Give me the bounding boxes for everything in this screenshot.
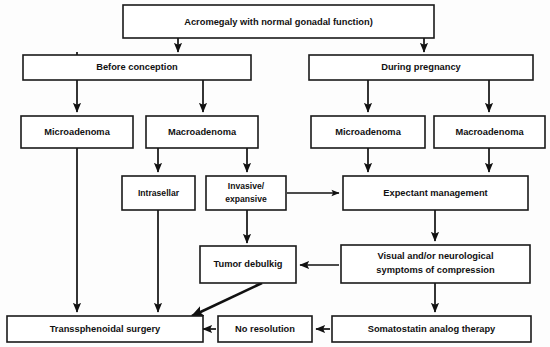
node-layer: Acromegaly with normal gonadal function)… [7, 5, 545, 342]
flowchart-canvas: Acromegaly with normal gonadal function)… [0, 0, 550, 347]
node-label-microadenoma-right: Microadenoma [335, 127, 401, 137]
node-microadenoma-right[interactable]: Microadenoma [311, 116, 425, 148]
node-expectant-management[interactable]: Expectant management [343, 176, 528, 210]
node-label-no-resolution: No resolution [235, 324, 295, 334]
node-tumor-debulking[interactable]: Tumor debulkig [200, 246, 296, 283]
node-label-macroadenoma-left: Macroadenoma [168, 127, 237, 137]
node-label-transsphenoidal-surgery: Transsphenoidal surgery [50, 324, 161, 334]
node-label-intrasellar: Intrasellar [138, 188, 180, 198]
node-label-during-pregnancy: During pregnancy [381, 62, 461, 72]
node-no-resolution[interactable]: No resolution [218, 316, 312, 342]
node-label-invasive-line2: expansive [225, 194, 267, 204]
node-microadenoma-left[interactable]: Microadenoma [21, 116, 133, 148]
node-invasive-expansive[interactable]: Invasive/ expansive [206, 176, 286, 210]
node-before-conception[interactable]: Before conception [23, 55, 251, 80]
node-label-invasive-line1: Invasive/ [228, 181, 265, 191]
node-label-microadenoma-left: Microadenoma [44, 127, 110, 137]
node-label-macroadenoma-right: Macroadenoma [455, 127, 524, 137]
node-label-symptoms-line2: symptoms of compression [376, 265, 495, 275]
node-label-before-conception: Before conception [96, 62, 178, 72]
node-acromegaly-root[interactable]: Acromegaly with normal gonadal function) [123, 5, 434, 38]
node-macroadenoma-right[interactable]: Macroadenoma [434, 116, 545, 148]
node-macroadenoma-left[interactable]: Macroadenoma [146, 116, 258, 148]
node-label-tumor-debulking: Tumor debulkig [213, 259, 282, 269]
edge-tumor-debulking-to-transsphenoidal [192, 283, 262, 316]
node-compression-symptoms[interactable]: Visual and/or neurological symptoms of c… [341, 245, 530, 283]
node-during-pregnancy[interactable]: During pregnancy [309, 55, 533, 80]
node-label-symptoms-line1: Visual and/or neurological [377, 251, 493, 261]
node-label-expectant-management: Expectant management [383, 188, 487, 198]
node-somatostatin-therapy[interactable]: Somatostatin analog therapy [332, 316, 531, 342]
flowchart-diagram: Acromegaly with normal gonadal function)… [0, 0, 550, 347]
node-label-somatostatin-therapy: Somatostatin analog therapy [368, 324, 496, 334]
node-transsphenoidal-surgery[interactable]: Transsphenoidal surgery [7, 316, 203, 342]
node-intrasellar[interactable]: Intrasellar [122, 176, 195, 210]
node-label-acromegaly-root: Acromegaly with normal gonadal function) [184, 17, 373, 27]
